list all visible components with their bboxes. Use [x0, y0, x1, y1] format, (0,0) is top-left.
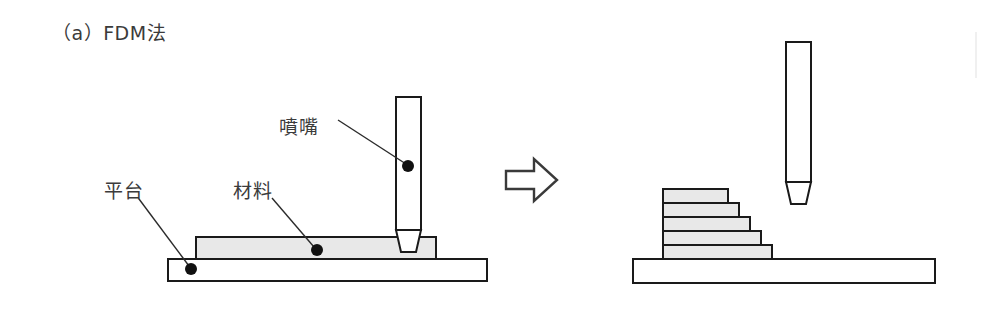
material-layer-4 [663, 203, 739, 217]
process-arrow [506, 159, 557, 201]
material-layer-2 [663, 231, 761, 245]
callout-dot-material [311, 244, 323, 256]
fdm-process-figure: （a）FDM法 噴嘴 材料 平台 [0, 0, 984, 313]
platform-left [168, 259, 487, 281]
leader-line-platform [139, 199, 189, 266]
callout-dot-nozzle [402, 160, 414, 172]
platform-right [633, 259, 935, 283]
figure-caption: （a）FDM法 [52, 18, 166, 45]
material-layer-5 [663, 189, 728, 203]
label-material: 材料 [233, 176, 272, 203]
callout-dot-platform [185, 263, 197, 275]
arrow-right-icon [506, 159, 557, 201]
nozzle-tip-left [396, 230, 421, 252]
material-layer-1 [663, 245, 772, 259]
label-nozzle: 噴嘴 [279, 112, 318, 139]
material-layer-3 [663, 217, 750, 231]
figure-canvas [0, 0, 984, 313]
nozzle-body-right [786, 42, 811, 182]
label-platform: 平台 [104, 176, 143, 203]
nozzle-tip-right [786, 182, 811, 204]
right-scene [633, 42, 935, 283]
